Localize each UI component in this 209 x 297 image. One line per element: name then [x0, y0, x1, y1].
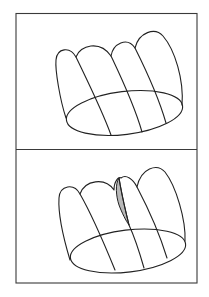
rib-2 — [111, 56, 142, 132]
rib-3 — [135, 48, 166, 123]
base-ellipse — [64, 85, 185, 142]
rib-2-lower — [129, 225, 144, 268]
rib-1 — [80, 194, 115, 270]
panel-bottom — [59, 168, 188, 279]
frame — [16, 14, 197, 284]
outer-border — [16, 14, 197, 284]
base-ellipse — [68, 223, 188, 279]
figure — [0, 0, 209, 297]
rib-1 — [76, 57, 111, 135]
lobe-outline — [56, 32, 182, 118]
panel-top — [56, 32, 185, 142]
diagram-canvas — [0, 0, 209, 297]
rib-3 — [137, 187, 167, 258]
